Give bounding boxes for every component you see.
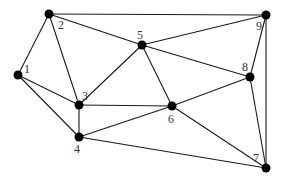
node-label-8: 8 — [242, 60, 248, 74]
edge-6-8 — [172, 77, 250, 106]
edge-1-3 — [18, 75, 79, 105]
node-2 — [45, 10, 54, 19]
edge-3-5 — [79, 45, 142, 105]
node-label-4: 4 — [74, 142, 80, 156]
node-label-1: 1 — [24, 62, 30, 76]
labels-layer: 123456789 — [24, 18, 262, 165]
edge-1-2 — [18, 14, 49, 75]
edge-3-6 — [79, 105, 172, 106]
edge-2-9 — [49, 14, 266, 15]
edge-1-4 — [18, 75, 79, 137]
edge-6-7 — [172, 106, 266, 168]
node-9 — [262, 11, 271, 20]
node-label-5: 5 — [137, 28, 143, 42]
edge-4-6 — [79, 106, 172, 137]
node-label-7: 7 — [253, 151, 259, 165]
edge-5-8 — [142, 45, 250, 77]
node-4 — [75, 133, 84, 142]
node-label-3: 3 — [82, 89, 88, 103]
node-7 — [262, 164, 271, 173]
edge-5-6 — [142, 45, 172, 106]
node-6 — [168, 102, 177, 111]
node-label-2: 2 — [58, 18, 64, 32]
edge-2-3 — [49, 14, 79, 105]
node-label-9: 9 — [256, 19, 262, 33]
graph-diagram: 123456789 — [0, 0, 282, 178]
node-label-6: 6 — [168, 112, 174, 126]
edge-4-7 — [79, 137, 266, 168]
node-1 — [14, 71, 23, 80]
edge-5-9 — [142, 15, 266, 45]
